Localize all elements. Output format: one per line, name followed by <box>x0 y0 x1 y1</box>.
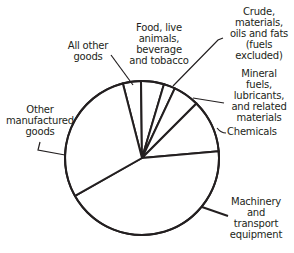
label-all-other-goods: All other goods <box>58 40 118 62</box>
leader-chemicals <box>217 128 226 133</box>
leader-mineral <box>193 98 224 103</box>
label-food: Food, live animals, beverage and tobacco <box>124 22 194 66</box>
label-other-manufactured: Other manufactured goods <box>0 104 80 137</box>
label-chemicals: Chemicals <box>227 126 287 137</box>
label-mineral-fuels: Mineral fuels, lubricants, and related m… <box>222 68 294 123</box>
leader-other-manufactured <box>38 142 65 155</box>
label-crude: Crude, materials, oils and fats (fuels e… <box>222 6 294 61</box>
label-machinery: Machinery and transport equipment <box>220 196 292 240</box>
